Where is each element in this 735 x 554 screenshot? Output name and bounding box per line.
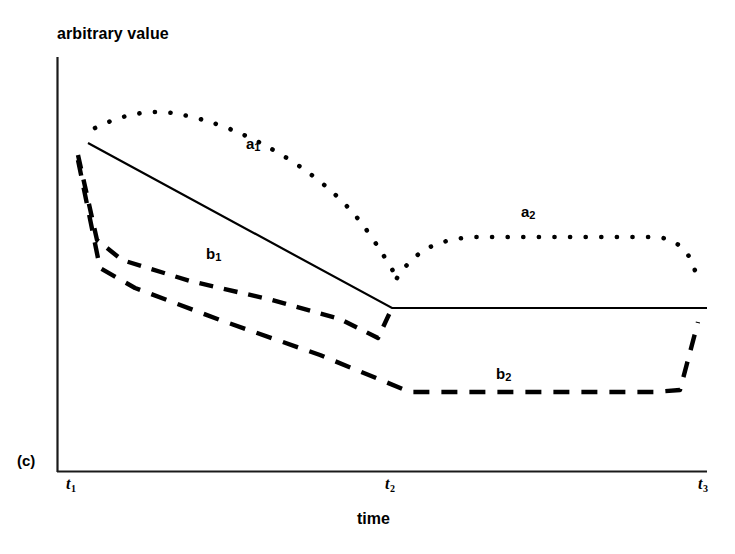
series-annotation-a1-sub: 1 bbox=[254, 141, 260, 153]
series-annotation-b1: b1 bbox=[206, 246, 221, 261]
series-path-b2 bbox=[78, 160, 698, 392]
series-annotation-a1: a1 bbox=[246, 136, 260, 151]
series-annotation-a2-sub: 2 bbox=[529, 209, 535, 221]
series-annotation-a2: a2 bbox=[521, 204, 535, 219]
x-tick-base-t1: t bbox=[66, 475, 70, 492]
chart-canvas bbox=[0, 0, 735, 554]
x-tick-label-t2: t2 bbox=[385, 476, 394, 492]
x-tick-sub-t1: 1 bbox=[71, 483, 76, 494]
series-annotation-b1-base: b bbox=[206, 245, 215, 262]
x-tick-label-t1: t1 bbox=[66, 476, 75, 492]
series-path-a2 bbox=[397, 237, 700, 283]
x-tick-base-t2: t bbox=[385, 475, 389, 492]
x-tick-label-t3: t3 bbox=[698, 476, 707, 492]
series-path-reference-solid bbox=[88, 143, 707, 308]
series-annotation-b2-sub: 2 bbox=[505, 371, 511, 383]
series-annotation-b1-sub: 1 bbox=[215, 251, 221, 263]
x-tick-sub-t3: 3 bbox=[703, 483, 708, 494]
x-axis-label: time bbox=[357, 511, 390, 527]
series-annotation-b2: b2 bbox=[496, 366, 511, 381]
x-tick-base-t3: t bbox=[698, 475, 702, 492]
series-annotation-b2-base: b bbox=[496, 365, 505, 382]
x-tick-sub-t2: 2 bbox=[390, 483, 395, 494]
series-path-b1 bbox=[78, 155, 392, 338]
y-axis-label: arbitrary value bbox=[57, 26, 169, 42]
panel-letter-label: (c) bbox=[17, 453, 35, 468]
figure-panel-c: arbitrary value time (c) t1 t2 t3 a1 a2 … bbox=[0, 0, 735, 554]
